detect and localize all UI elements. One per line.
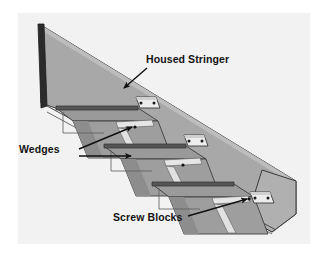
screw-dot-2a (188, 140, 191, 143)
label-screw-blocks: Screw Blocks (113, 211, 183, 223)
screw-dot-1c (133, 125, 136, 128)
tread-3-nosing (152, 182, 234, 186)
screw-block-3-top (250, 192, 271, 195)
tread-2-nosing (104, 144, 186, 148)
figure-container: Housed Stringer Wedges Screw Blocks (0, 0, 324, 259)
label-housed-stringer: Housed Stringer (146, 53, 229, 65)
screw-dot-3b (267, 197, 270, 200)
screw-dot-2c (181, 163, 184, 166)
screw-dot-2b (201, 140, 204, 143)
label-wedges: Wedges (19, 143, 60, 155)
screw-dot-3c (247, 197, 250, 200)
screw-block-2-top (184, 135, 205, 138)
tread-1-nosing (56, 106, 138, 110)
housed-stringer-diagram: Housed Stringer Wedges Screw Blocks (0, 0, 324, 259)
screw-dot-1b (153, 102, 156, 105)
screw-dot-1a (140, 102, 143, 105)
screw-dot-3a (254, 197, 257, 200)
screw-block-1-top (136, 97, 157, 100)
